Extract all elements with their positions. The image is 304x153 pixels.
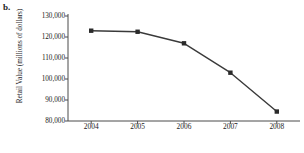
axis-lines [68, 14, 300, 121]
data-point-marker [135, 30, 139, 34]
figure-panel-b: b. Retail Value (millions of dollars) 13… [0, 0, 304, 153]
data-point-markers [89, 29, 279, 114]
data-point-marker [275, 109, 279, 113]
data-point-marker [182, 41, 186, 45]
data-point-marker [228, 71, 232, 75]
data-point-marker [89, 29, 93, 33]
chart-plot-area [0, 0, 304, 153]
